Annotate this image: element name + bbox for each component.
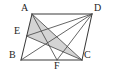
geometry-figure: A D B C E F bbox=[0, 0, 114, 73]
vertex-label-F: F bbox=[54, 61, 60, 71]
shaded-region-layer bbox=[27, 14, 83, 60]
vertex-label-E: E bbox=[14, 26, 20, 36]
vertex-label-A: A bbox=[21, 3, 28, 13]
vertex-label-D: D bbox=[94, 3, 101, 13]
vertex-label-B: B bbox=[9, 50, 16, 60]
shaded-triangle-AEC bbox=[27, 14, 83, 60]
vertex-label-C: C bbox=[84, 50, 91, 60]
